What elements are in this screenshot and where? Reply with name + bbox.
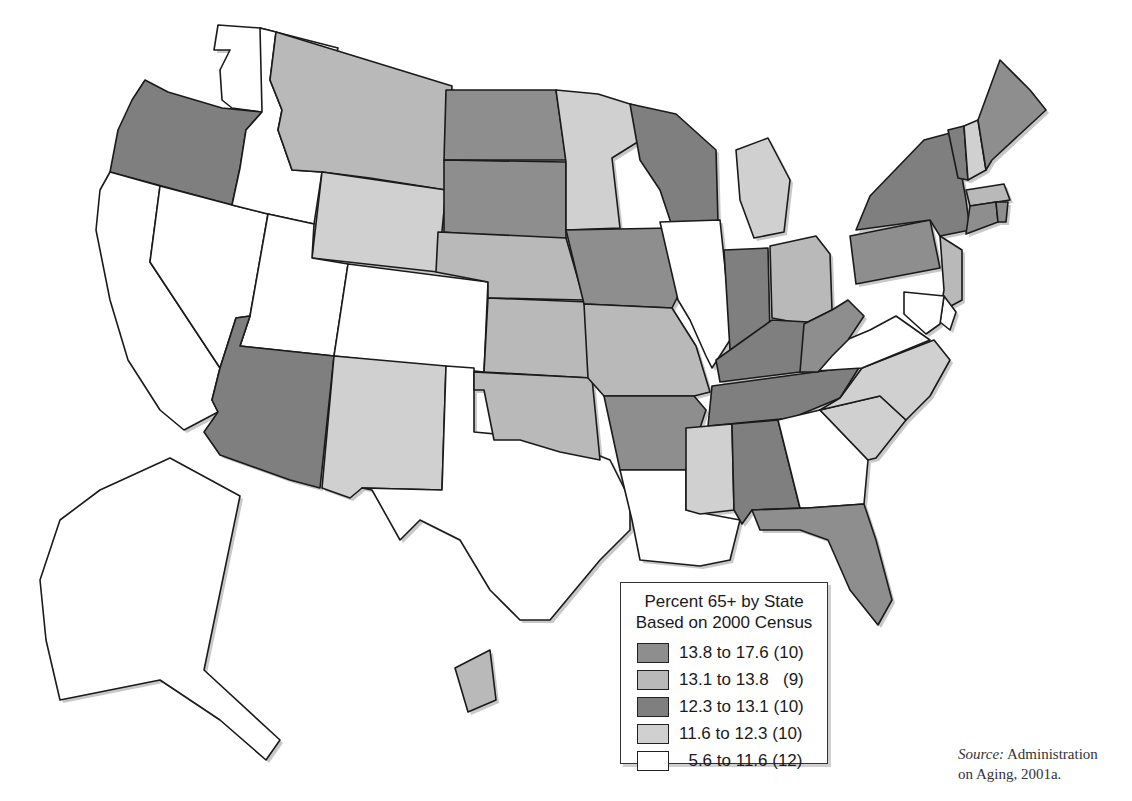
legend-row-3: 12.3 to 13.1 (10) — [637, 693, 827, 720]
state-ak — [40, 458, 280, 760]
state-oh — [770, 236, 832, 324]
state-ks — [484, 298, 590, 378]
legend-label-4: 11.6 to 12.3 (10) — [679, 724, 803, 744]
legend-row-4: 11.6 to 12.3 (10) — [637, 720, 827, 747]
source-line2: on Aging, 2001a. — [958, 764, 1098, 784]
legend-swatch-5 — [637, 751, 669, 771]
legend-swatch-1 — [637, 643, 669, 663]
legend-label-3: 12.3 to 13.1 (10) — [679, 697, 804, 717]
legend-row-2: 13.1 to 13.8 (9) — [637, 666, 827, 693]
state-nm — [322, 356, 446, 498]
map-legend: Percent 65+ by State Based on 2000 Censu… — [620, 582, 828, 764]
legend-label-1: 13.8 to 17.6 (10) — [679, 643, 804, 663]
legend-swatch-3 — [637, 697, 669, 717]
state-wy — [312, 172, 446, 272]
legend-title-line2: Based on 2000 Census — [621, 612, 827, 633]
us-choropleth-map — [0, 0, 1132, 801]
state-ms — [686, 424, 734, 514]
legend-label-5: 5.6 to 11.6 (12) — [679, 751, 802, 771]
state-ri — [996, 202, 1008, 222]
source-prefix: Source: — [958, 746, 1004, 762]
legend-swatch-2 — [637, 670, 669, 690]
legend-swatch-4 — [637, 724, 669, 744]
source-line1: Administration — [1004, 746, 1098, 762]
state-me — [978, 60, 1046, 170]
state-nd — [444, 90, 566, 160]
legend-row-5: 5.6 to 11.6 (12) — [637, 747, 827, 774]
state-sd — [444, 160, 566, 244]
state-mt — [270, 32, 452, 190]
state-wi — [630, 104, 718, 232]
legend-row-1: 13.8 to 17.6 (10) — [637, 639, 827, 666]
source-note: Source: Administration on Aging, 2001a. — [958, 744, 1098, 784]
legend-title-line1: Percent 65+ by State — [621, 591, 827, 612]
legend-label-2: 13.1 to 13.8 (9) — [679, 670, 804, 690]
legend-title: Percent 65+ by State Based on 2000 Censu… — [621, 591, 827, 633]
state-hi — [455, 650, 496, 712]
state-co — [334, 264, 488, 372]
state-mi — [736, 138, 790, 238]
